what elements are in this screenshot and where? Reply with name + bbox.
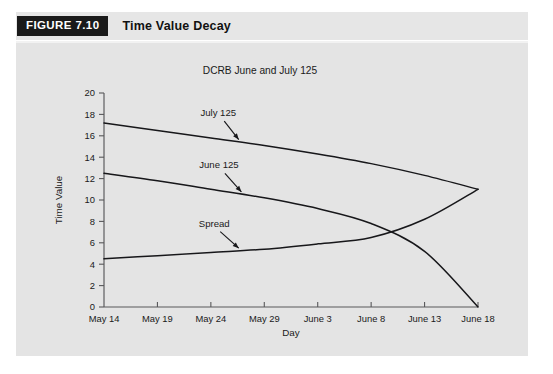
annotation-label-spread: Spread xyxy=(199,218,230,229)
y-tick-label: 6 xyxy=(90,237,95,248)
chart-title: DCRB June and July 125 xyxy=(203,65,318,76)
x-tick-label: May 14 xyxy=(89,313,120,324)
time-value-decay-chart: DCRB June and July 125 02468101214161820… xyxy=(16,41,528,356)
x-tick-label: June 8 xyxy=(357,313,385,324)
series-lines xyxy=(104,123,478,307)
y-axis-label: Time Value xyxy=(53,175,64,224)
x-axis-ticks: May 14May 19May 24May 29June 3June 8June… xyxy=(89,302,495,324)
y-tick-label: 16 xyxy=(85,130,95,141)
y-tick-label: 8 xyxy=(90,216,95,227)
series-line-june-125 xyxy=(104,173,478,307)
y-tick-label: 18 xyxy=(85,109,95,120)
y-tick-label: 10 xyxy=(85,194,95,205)
figure-panel: DCRB June and July 125 02468101214161820… xyxy=(16,41,528,356)
annotation-label-june-125: June 125 xyxy=(199,159,238,170)
x-tick-label: June 13 xyxy=(408,313,441,324)
figure-number-badge: FIGURE 7.10 xyxy=(17,16,108,36)
y-tick-label: 14 xyxy=(85,152,95,163)
x-axis-label: Day xyxy=(282,327,300,338)
series-annotations: July 125June 125Spread xyxy=(199,107,242,248)
y-tick-label: 4 xyxy=(90,259,95,270)
x-tick-label: June 3 xyxy=(304,313,332,324)
series-line-july-125 xyxy=(104,123,478,189)
annotation-label-july-125: July 125 xyxy=(200,107,236,118)
x-tick-label: May 19 xyxy=(142,313,173,324)
y-axis-ticks: 02468101214161820 xyxy=(85,87,104,312)
y-tick-label: 0 xyxy=(90,301,95,312)
y-tick-label: 20 xyxy=(85,87,95,98)
y-tick-label: 2 xyxy=(90,280,95,291)
x-tick-label: May 29 xyxy=(249,313,280,324)
figure-header: FIGURE 7.10 Time Value Decay xyxy=(16,12,528,40)
x-tick-label: May 24 xyxy=(195,313,226,324)
figure-title: Time Value Decay xyxy=(122,19,231,33)
y-tick-label: 12 xyxy=(85,173,95,184)
x-tick-label: June 18 xyxy=(461,313,494,324)
